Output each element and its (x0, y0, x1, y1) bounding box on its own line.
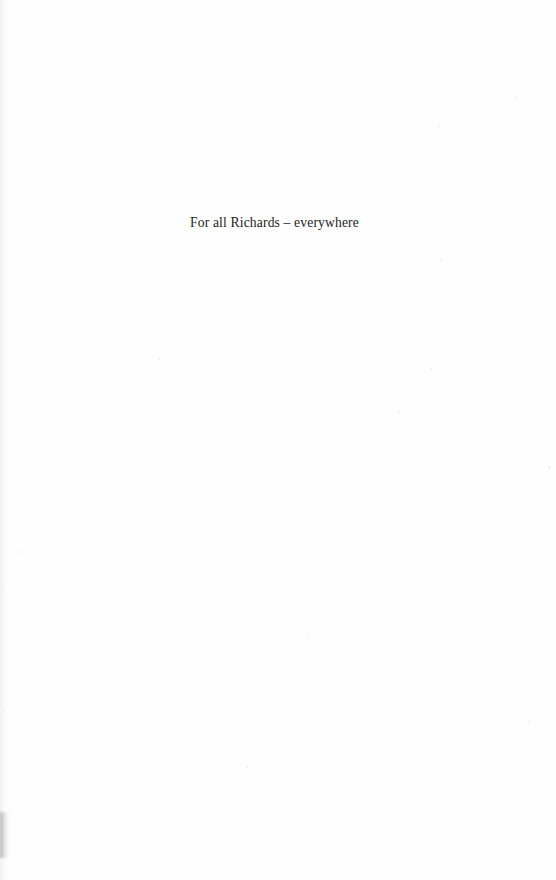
document-page: For all Richards – everywhere (0, 0, 556, 880)
scan-fleck (440, 259, 442, 261)
scan-fleck (398, 411, 400, 413)
scan-fleck (515, 96, 517, 98)
scan-fleck (2, 586, 4, 588)
scan-fleck (430, 368, 432, 370)
scan-fleck (3, 709, 5, 711)
scan-fleck (455, 36, 457, 38)
scan-gutter-shadow (0, 0, 14, 880)
scan-fleck (308, 637, 310, 639)
scan-fleck (158, 358, 160, 360)
scan-fleck (18, 551, 20, 553)
dedication-text: For all Richards – everywhere (0, 214, 549, 232)
scan-smudge-artifact (0, 812, 9, 858)
scan-fleck (438, 125, 440, 127)
scan-fleck (528, 721, 530, 723)
scan-fleck (246, 766, 248, 768)
scan-fleck (487, 668, 489, 670)
scan-fleck (548, 466, 551, 469)
